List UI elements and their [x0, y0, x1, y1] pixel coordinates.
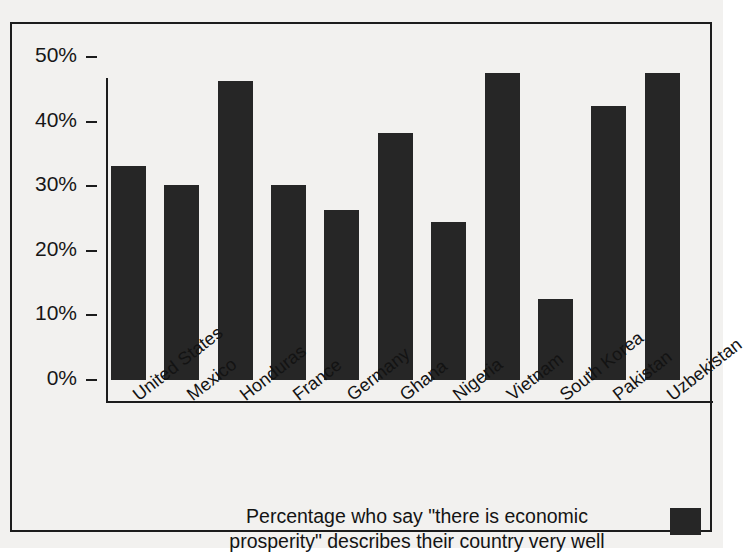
chart-frame: 0%10%20%30%40%50% United StatesMexicoHon… — [10, 22, 712, 532]
y-tick-mark — [86, 121, 97, 123]
y-tick-label: 50% — [12, 43, 77, 67]
bar — [485, 73, 520, 380]
legend-label: Percentage who say "there is economic pr… — [182, 504, 652, 554]
plot-area — [97, 57, 702, 380]
chart-legend: Percentage who say "there is economic pr… — [182, 504, 707, 556]
y-tick-label: 40% — [12, 108, 77, 132]
y-tick-label: 10% — [12, 301, 77, 325]
y-tick-mark — [86, 379, 97, 381]
legend-label-line2: prosperity" describes their country very… — [229, 530, 604, 552]
y-tick-mark — [86, 185, 97, 187]
y-tick-label: 20% — [12, 237, 77, 261]
y-tick-mark — [86, 314, 97, 316]
y-tick-label: 0% — [12, 366, 77, 390]
y-tick-label: 30% — [12, 172, 77, 196]
bar — [324, 210, 359, 380]
bar — [645, 73, 680, 380]
bar — [378, 133, 413, 380]
legend-label-line1: Percentage who say "there is economic — [246, 505, 588, 527]
y-tick-mark — [86, 56, 97, 58]
bar — [111, 166, 146, 380]
legend-color-swatch — [670, 508, 701, 535]
y-tick-mark — [86, 250, 97, 252]
